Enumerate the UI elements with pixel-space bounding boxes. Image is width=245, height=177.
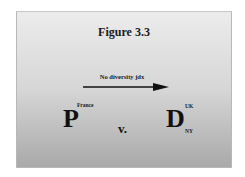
arrow-label: No diversity jdx: [57, 73, 187, 80]
versus-label: v.: [118, 122, 127, 135]
figure-title: Figure 3.3: [17, 25, 231, 40]
defendant-letter: D: [166, 106, 185, 132]
plaintiff-citizenship: France: [77, 103, 94, 109]
right-arrow-icon: [83, 82, 169, 92]
figure-slide: Figure 3.3 No diversity jdx P France v. …: [16, 11, 232, 168]
defendant-citizenship-ny: NY: [185, 129, 193, 135]
defendant-citizenship-uk: UK: [185, 104, 193, 110]
plaintiff-letter: P: [63, 106, 79, 132]
